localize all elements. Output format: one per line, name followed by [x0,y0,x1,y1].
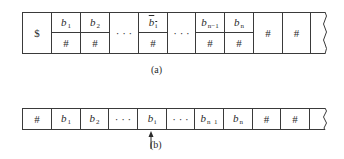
tape-a-cell-bn-top: bn [224,12,254,33]
tape-a-cell-ellipsis-1: · · · [109,12,139,54]
tape-a-cell-ellipsis-2: · · · [167,12,196,54]
tape-b-cell-bi: bi [137,108,167,130]
ellipsis: · · · [172,113,189,125]
symbol-bn: bn [234,16,244,30]
tape-b-cell-b2: b2 [80,108,109,130]
tape-b-cell-ellipsis-1: · · · [108,108,138,130]
symbol-bn-minus-1: bn−1 [201,16,218,30]
ellipsis: · · · [173,27,190,39]
symbol-b1: b1 [61,112,71,126]
symbol-b1: b1 [61,16,71,30]
blank-symbol: # [63,37,69,49]
tape-b-cell-blank-2: # [280,108,310,130]
tape-a-cell-bn-bottom: # [224,32,254,54]
tape-b-cell-bn: bn [223,108,253,130]
symbol-bi-marked: bi [149,16,157,30]
blank-symbol: # [292,113,298,125]
tape-a-cell-b1-top: b1 [51,12,81,33]
symbol-b2: b2 [90,112,100,126]
tape-a-cell-b2-bottom: # [80,32,110,54]
blank-symbol: # [236,37,242,49]
blank-symbol: # [265,27,271,39]
symbol-bn: bn [233,112,243,126]
tape-a-cell-b1-bottom: # [51,32,81,54]
tape-a-torn-edge-icon [320,12,330,54]
blank-symbol: # [92,37,98,49]
tape-b-cell-b1: b1 [51,108,81,130]
tape-a-cell-b2-top: b2 [80,12,110,33]
tape-a-cell-bi-top: bi [138,12,168,33]
tape-a-cell-dollar: $ [22,12,52,54]
tape-b-cell-blank-left: # [22,108,52,130]
tape-b-cell-blank-1: # [252,108,281,130]
ellipsis: · · · [116,27,133,39]
dollar-symbol: $ [34,27,40,39]
tape-a-cell-blank-2: # [282,12,311,54]
blank-symbol: # [294,27,300,39]
tape-a-cell-bn-1-top: bn−1 [195,12,225,33]
caption-b: (b) [150,139,162,150]
tape-a-cell-bn-1-bottom: # [195,32,225,54]
blank-symbol: # [264,113,270,125]
tape-b-cell-ellipsis-2: · · · [166,108,195,130]
tape-a-cell-blank-1: # [253,12,283,54]
ellipsis: · · · [115,113,132,125]
symbol-bn-minus-1: bn 1 [201,112,218,126]
caption-a: (a) [151,64,162,75]
symbol-b2: b2 [90,16,100,30]
blank-symbol: # [34,113,40,125]
tape-a-cell-bi-bottom: # [138,32,168,54]
tape-b-torn-edge-icon [320,108,330,130]
blank-symbol: # [150,37,156,49]
blank-symbol: # [207,37,213,49]
tape-b-cell-bn-1: bn 1 [194,108,224,130]
symbol-bi: bi [148,112,156,126]
